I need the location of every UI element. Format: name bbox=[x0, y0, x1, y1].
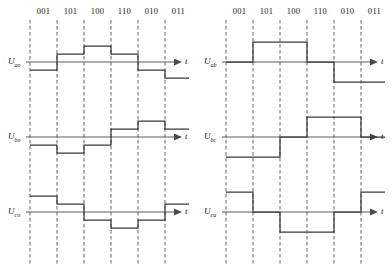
u-co-sub: co bbox=[15, 212, 21, 218]
plot-u-co bbox=[26, 196, 189, 228]
plot-u-ab bbox=[222, 42, 385, 82]
u-ca-sub: ca bbox=[211, 212, 217, 218]
plot-u-ca bbox=[222, 192, 385, 232]
axis-label-u-bc: Ubc bbox=[204, 131, 216, 143]
axis-label-u-ao: Uao bbox=[8, 56, 21, 68]
t-label-u-ca: t bbox=[381, 206, 384, 216]
waveform-figure: 001 101 100 110 010 011 bbox=[0, 0, 392, 273]
u-bo-sub: bo bbox=[15, 137, 21, 143]
plot-u-bo bbox=[26, 121, 189, 153]
right-panel-svg bbox=[196, 0, 392, 273]
plot-u-bc bbox=[222, 117, 385, 157]
gridlines bbox=[226, 20, 361, 265]
u-ab-sub: ab bbox=[211, 62, 217, 68]
u-bc-sub: bc bbox=[211, 137, 217, 143]
gridlines bbox=[30, 20, 165, 265]
t-label-u-co: t bbox=[185, 206, 188, 216]
t-label-u-ab: t bbox=[381, 56, 384, 66]
left-panel-svg bbox=[0, 0, 196, 273]
t-label-u-bc: t bbox=[381, 131, 384, 141]
axis-label-u-bo: Ubo bbox=[8, 131, 21, 143]
panel-phase-voltages: 001 101 100 110 010 011 bbox=[0, 0, 196, 273]
axis-label-u-ca: Uca bbox=[204, 206, 216, 218]
t-label-u-bo: t bbox=[185, 131, 188, 141]
axis-label-u-ab: Uab bbox=[204, 56, 217, 68]
panel-line-voltages: 001 101 100 110 010 011 bbox=[196, 0, 392, 273]
u-ao-sub: ao bbox=[15, 62, 21, 68]
t-label-u-ao: t bbox=[185, 56, 188, 66]
axis-label-u-co: Uco bbox=[8, 206, 20, 218]
plot-u-ao bbox=[26, 46, 189, 78]
